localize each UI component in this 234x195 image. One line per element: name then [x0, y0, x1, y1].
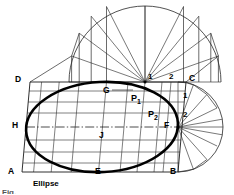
- label-corner-a: A: [8, 167, 14, 176]
- top-chord-left: [30, 56, 72, 82]
- label-point-p2-sub: 2: [154, 114, 158, 121]
- top-chord-left-2: [72, 33, 80, 56]
- top-semicircle-group: [30, 6, 221, 82]
- label-point-h: H: [12, 121, 18, 130]
- point-dot-f: [177, 126, 180, 129]
- caption-fragment-clipped: Fig.: [2, 188, 28, 194]
- label-point-e: E: [95, 167, 101, 176]
- right-ray-6: [178, 127, 222, 135]
- point-dot-g: [144, 81, 147, 84]
- label-top-division-1: 1: [148, 73, 152, 81]
- label-point-f: F: [164, 121, 169, 130]
- label-ellipse-caption: Ellipse: [33, 180, 59, 188]
- label-point-j: J: [99, 131, 104, 140]
- label-point-g: G: [103, 86, 110, 95]
- label-corner-b: B: [170, 167, 176, 176]
- label-point-p2: P2: [148, 110, 158, 121]
- label-point-p1: P1: [131, 94, 141, 105]
- right-projection-5: [193, 160, 207, 170]
- label-corner-d: D: [15, 75, 21, 84]
- label-top-division-2: 2: [169, 73, 173, 81]
- diagram-canvas: [0, 0, 234, 195]
- label-point-p1-sub: 1: [137, 98, 141, 105]
- right-projection-2: [193, 85, 207, 95]
- right-ray-4: [178, 119, 222, 127]
- label-corner-c: C: [189, 74, 195, 83]
- label-right-division-2: 2: [183, 111, 187, 119]
- right-projection-3: [207, 95, 217, 109]
- ellipse-construction-figure: D C H A E B G J F P1 P2 1 2 1 2 Ellipse …: [0, 0, 234, 195]
- right-ray-8: [178, 127, 207, 160]
- label-right-division-1: 1: [183, 92, 187, 100]
- top-chord-right-2: [211, 33, 219, 56]
- top-ray-8: [145, 33, 211, 82]
- top-ray-2: [79, 33, 145, 82]
